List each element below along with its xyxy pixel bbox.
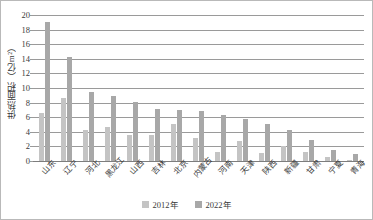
bar (149, 135, 154, 161)
x-axis-label: 宁夏 (320, 162, 342, 196)
x-axis-label: 天津 (232, 162, 254, 196)
bar (199, 111, 204, 161)
bar-group (187, 15, 209, 161)
legend-item[interactable]: 2022年 (195, 198, 232, 210)
bar (303, 152, 308, 161)
bar-group (210, 15, 232, 161)
y-axis-tick-label: 14 (22, 54, 31, 64)
chart-legend: 2012年2022年 (1, 198, 372, 210)
x-axis-label: 陕西 (254, 162, 276, 196)
y-axis-title: 供热面积（亿m²） (2, 1, 18, 161)
x-axis-label: 山西 (121, 162, 143, 196)
y-axis-tick-label: 0 (26, 156, 30, 166)
x-axis-labels: 山东辽宁河北黑龙江山西吉林北京内蒙古河南天津陕西新疆甘肃宁夏青海 (33, 162, 364, 196)
bar-group (99, 15, 121, 161)
bar (133, 102, 138, 161)
legend-item[interactable]: 2012年 (142, 198, 179, 210)
bar (111, 96, 116, 161)
x-axis-label: 青海 (342, 162, 364, 196)
bar (347, 160, 352, 161)
bar-group (254, 15, 276, 161)
bar (237, 141, 242, 161)
bar-group (143, 15, 165, 161)
y-axis-tick-label: 12 (22, 68, 31, 78)
bar-group (33, 15, 55, 161)
bar (45, 22, 50, 161)
x-axis-label: 新疆 (276, 162, 298, 196)
legend-swatch-icon (195, 201, 202, 208)
bar-group (232, 15, 254, 161)
y-axis-tick-label: 2 (26, 141, 30, 151)
legend-swatch-icon (142, 201, 149, 208)
x-axis-label: 吉林 (143, 162, 165, 196)
legend-label: 2022年 (206, 198, 232, 210)
bar (177, 110, 182, 161)
x-axis-label: 北京 (165, 162, 187, 196)
bar (325, 157, 330, 161)
bar (221, 115, 226, 161)
y-axis-tick-label: 16 (22, 39, 31, 49)
bar (243, 119, 248, 161)
bar (259, 153, 264, 161)
bar (61, 98, 66, 161)
bar (155, 109, 160, 161)
bar (67, 57, 72, 161)
bar (265, 124, 270, 161)
bar (89, 92, 94, 161)
bar-group (77, 15, 99, 161)
legend-label: 2012年 (153, 198, 179, 210)
y-axis-tick-label: 18 (22, 25, 31, 35)
bar-group (276, 15, 298, 161)
bar (39, 113, 44, 161)
x-axis-label: 黑龙江 (99, 162, 121, 196)
bar-group (298, 15, 320, 161)
bar-group (165, 15, 187, 161)
bar-group (342, 15, 364, 161)
bar (281, 146, 286, 161)
x-axis-label: 山东 (33, 162, 55, 196)
bar (171, 124, 176, 161)
x-axis-label: 河北 (77, 162, 99, 196)
bar (193, 138, 198, 161)
x-axis-label: 甘肃 (298, 162, 320, 196)
bar-group (320, 15, 342, 161)
y-axis-title-text: 供热面积（亿m²） (4, 42, 17, 119)
y-axis-tick-label: 6 (26, 112, 30, 122)
bar-group (55, 15, 77, 161)
y-axis-tick-label: 20 (22, 10, 31, 20)
bar (105, 127, 110, 161)
bar (83, 130, 88, 161)
x-axis-label: 辽宁 (55, 162, 77, 196)
plot-area: 02468101214161820 (33, 15, 364, 161)
bar-group (121, 15, 143, 161)
bar (127, 135, 132, 161)
y-axis-tick-label: 4 (26, 127, 30, 137)
y-axis-tick-label: 8 (26, 98, 30, 108)
bar-groups (33, 15, 364, 161)
chart-figure: 供热面积（亿m²） 02468101214161820 山东辽宁河北黑龙江山西吉… (0, 0, 373, 220)
bar (215, 152, 220, 161)
x-axis-label: 内蒙古 (187, 162, 209, 196)
y-axis-tick-label: 10 (22, 83, 31, 93)
x-axis-label: 河南 (210, 162, 232, 196)
